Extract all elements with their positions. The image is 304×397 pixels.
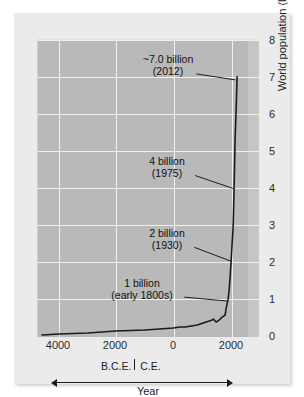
era-row: B.C.E. C.E. <box>37 360 259 374</box>
x-axis-tick-2000ce: 2000 <box>219 340 243 351</box>
annotation-2-billion-line1: 2 billion <box>137 227 197 239</box>
arrow-line <box>56 382 228 383</box>
y-axis-tick-2: 2 <box>262 257 282 268</box>
population-growth-chart-figure: ~7.0 billion (2012) 4 billion (1975) 2 b… <box>0 0 304 397</box>
plot-area-inner: ~7.0 billion (2012) 4 billion (1975) 2 b… <box>38 40 259 337</box>
annotation-4-billion-line2: (1975) <box>137 167 197 179</box>
leader-line-2-billion <box>194 247 231 261</box>
annotation-2-billion-line2: (1930) <box>137 239 197 251</box>
x-axis-tick-4000bce: 4000 <box>46 340 70 351</box>
y-axis-title: World population (billions) <box>276 0 288 91</box>
plot-area: ~7.0 billion (2012) 4 billion (1975) 2 b… <box>37 39 259 337</box>
era-label-ce: C.E. <box>140 360 160 372</box>
x-axis-tick-labels: 4000 2000 0 2000 <box>37 340 259 356</box>
leader-line-1-billion <box>184 297 228 301</box>
annotation-4-billion-line1: 4 billion <box>137 155 197 167</box>
annotation-2-billion: 2 billion (1930) <box>137 227 197 251</box>
era-label-bce: B.C.E. <box>101 360 131 372</box>
y-axis-tick-6: 6 <box>262 109 282 120</box>
annotation-7-billion: ~7.0 billion (2012) <box>133 53 203 77</box>
x-axis-tick-0: 0 <box>170 340 176 351</box>
annotation-1-billion-line1: 1 billion <box>98 277 186 289</box>
annotation-7-billion-line1: ~7.0 billion <box>133 53 203 65</box>
era-divider <box>134 359 135 370</box>
x-axis-title: Year <box>37 385 259 397</box>
y-axis-tick-1: 1 <box>262 294 282 305</box>
leader-line-4-billion <box>195 176 233 189</box>
annotation-7-billion-line2: (2012) <box>133 65 203 77</box>
annotation-1-billion-line2: (early 1800s) <box>98 289 186 301</box>
figure-card: ~7.0 billion (2012) 4 billion (1975) 2 b… <box>14 13 290 384</box>
y-axis-tick-5: 5 <box>262 146 282 157</box>
annotation-4-billion: 4 billion (1975) <box>137 155 197 179</box>
annotation-1-billion: 1 billion (early 1800s) <box>98 277 186 301</box>
y-axis-tick-0: 0 <box>262 331 282 342</box>
x-axis-tick-2000bce: 2000 <box>103 340 127 351</box>
y-axis-tick-4: 4 <box>262 183 282 194</box>
y-axis-tick-3: 3 <box>262 220 282 231</box>
